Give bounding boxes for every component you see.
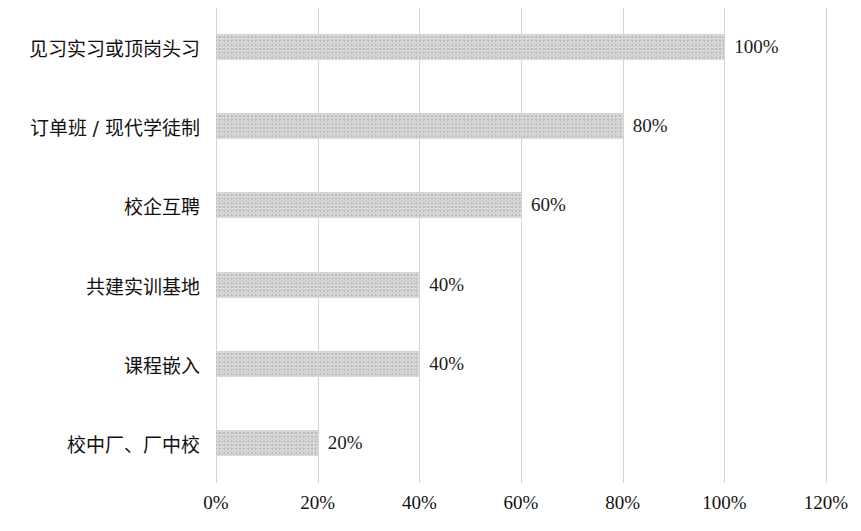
bar[interactable] [216,430,318,456]
x-tick-label: 80% [605,492,640,514]
category-label: 课程嵌入 [124,351,206,378]
category-label: 订单班 / 现代学徒制 [30,113,206,140]
bar-row: 80% [216,87,826,166]
x-tick-label: 100% [702,492,746,514]
category-label: 共建实训基地 [86,272,206,299]
category-label-row: 订单班 / 现代学徒制 [0,87,206,166]
bar[interactable] [216,272,419,298]
x-tick-label: 0% [203,492,228,514]
x-tick-label: 20% [300,492,335,514]
x-tick-label: 40% [402,492,437,514]
x-axis-tick-labels: 0%20%40%60%80%100%120% [216,492,826,524]
bar-value-label: 40% [419,272,464,298]
bar[interactable] [216,192,521,218]
category-label-row: 校企互聘 [0,166,206,245]
category-label: 见习实习或顶岗头习 [29,34,206,61]
category-label-row: 课程嵌入 [0,325,206,404]
bar-row: 40% [216,246,826,325]
x-tick-label: 120% [804,492,848,514]
bar-value-label: 100% [724,34,778,60]
category-label-row: 见习实习或顶岗头习 [0,8,206,87]
bar-row: 60% [216,166,826,245]
bar-row: 20% [216,404,826,483]
category-label-row: 共建实训基地 [0,246,206,325]
bar[interactable] [216,351,419,377]
bar-row: 40% [216,325,826,404]
bar-value-label: 80% [623,113,668,139]
category-label: 校中厂、厂中校 [67,430,206,457]
bar[interactable] [216,34,724,60]
gridline [826,8,827,483]
category-axis-labels: 见习实习或顶岗头习订单班 / 现代学徒制校企互聘共建实训基地课程嵌入校中厂、厂中… [0,8,206,483]
bar-chart: 见习实习或顶岗头习订单班 / 现代学徒制校企互聘共建实训基地课程嵌入校中厂、厂中… [0,0,861,531]
bar-value-label: 20% [318,430,363,456]
x-tick-label: 60% [504,492,539,514]
bar-row: 100% [216,8,826,87]
category-label-row: 校中厂、厂中校 [0,404,206,483]
bar-value-label: 60% [521,192,566,218]
bar[interactable] [216,113,623,139]
plot-area: 100%80%60%40%40%20% [216,8,826,483]
bar-value-label: 40% [419,351,464,377]
category-label: 校企互聘 [124,192,206,219]
